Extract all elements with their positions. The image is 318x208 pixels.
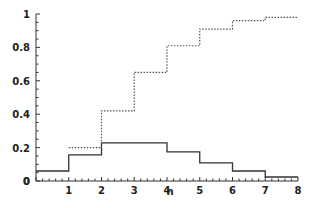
x-tick-label: 5 (196, 185, 203, 196)
step-chart: 00.20.40.60.81012345678 n (0, 0, 318, 208)
y-tick-label: 0.6 (12, 76, 30, 87)
y-tick-label: 0.2 (12, 143, 30, 154)
x-tick-label: 7 (262, 185, 269, 196)
x-tick-label: 0 (23, 176, 30, 187)
series-group (36, 17, 298, 177)
y-tick-label: 1 (23, 9, 30, 20)
x-tick-label: 1 (65, 185, 72, 196)
y-tick-label: 0.4 (12, 109, 30, 120)
x-tick-label: 8 (295, 185, 302, 196)
cdf-step-line (69, 17, 298, 147)
x-tick-label: 3 (131, 185, 138, 196)
x-tick-label: 2 (98, 185, 105, 196)
axes: 00.20.40.60.81012345678 (12, 9, 301, 196)
y-tick-label: 0.8 (12, 42, 30, 53)
x-axis-label: n (166, 186, 173, 197)
x-tick-label: 6 (229, 185, 236, 196)
